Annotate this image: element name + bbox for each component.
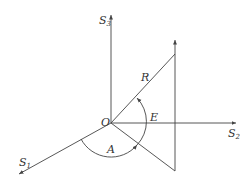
- label-s1: S1: [19, 156, 31, 170]
- label-s3: S3: [99, 14, 112, 28]
- arc-elevation: [137, 98, 146, 145]
- axis-s1: [19, 123, 111, 174]
- label-r: R: [140, 71, 149, 84]
- vector-r: [111, 54, 175, 123]
- label-origin: O: [101, 116, 110, 129]
- label-a: A: [106, 143, 115, 156]
- ground-projection: [111, 123, 175, 171]
- coordinate-diagram: S3 S2 S1 O R E A: [0, 0, 250, 188]
- label-s2: S2: [228, 127, 241, 141]
- label-e: E: [149, 111, 158, 124]
